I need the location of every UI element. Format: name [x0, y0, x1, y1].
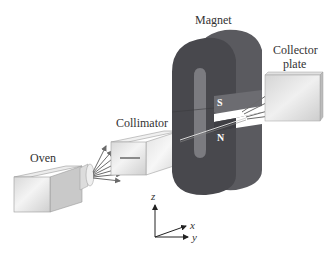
north-pole-label: N	[217, 132, 224, 143]
oven-label: Oven	[30, 152, 56, 165]
coordinate-axes	[155, 205, 188, 237]
x-axis-label: x	[190, 219, 195, 231]
collimator-label: Collimator	[116, 117, 168, 130]
magnet-label: Magnet	[195, 14, 232, 27]
collector-label-line1: Collector	[273, 44, 318, 57]
y-axis-label: y	[192, 231, 197, 243]
z-axis-label: z	[151, 190, 155, 202]
collimator	[111, 131, 180, 175]
stern-gerlach-diagram: Magnet Collector plate Collimator Oven S…	[0, 0, 331, 255]
collector-label-line2: plate	[283, 58, 306, 71]
oven	[14, 164, 94, 212]
south-pole-label: S	[217, 97, 223, 108]
magnet	[172, 30, 262, 195]
collector-plate	[265, 72, 323, 121]
